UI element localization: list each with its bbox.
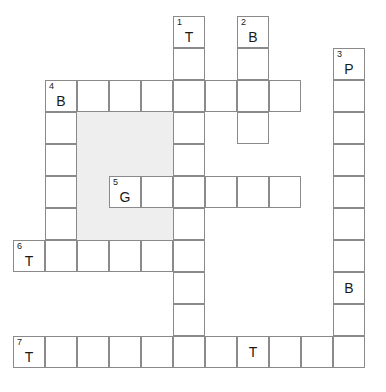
cell-r7c1[interactable] [45, 240, 77, 272]
cell-r1c5[interactable] [173, 48, 205, 80]
cell-r7c5[interactable] [173, 240, 205, 272]
cell-r3c1[interactable] [45, 112, 77, 144]
cell-letter: P [334, 62, 364, 76]
cell-number: 6 [17, 242, 22, 251]
cell-r10c1[interactable] [45, 336, 77, 368]
cell-r3c7[interactable] [237, 112, 269, 144]
cell-r9c5[interactable] [173, 304, 205, 336]
cell-r2c4[interactable] [141, 80, 173, 112]
cell-r4c1[interactable] [45, 144, 77, 176]
cell-r2c2[interactable] [77, 80, 109, 112]
cell-number: 3 [337, 50, 342, 59]
cell-number: 2 [241, 18, 246, 27]
cell-letter: T [238, 345, 268, 359]
cell-number: 7 [17, 338, 22, 347]
cell-r10c10[interactable] [333, 336, 365, 368]
cell-letter: T [14, 350, 44, 364]
cell-r2c3[interactable] [109, 80, 141, 112]
cell-letter: G [110, 190, 140, 204]
cell-r9c10[interactable] [333, 304, 365, 336]
cell-number: 1 [177, 18, 182, 27]
cell-letter: B [334, 281, 364, 295]
cell-r10c0[interactable]: 7T [13, 336, 45, 368]
cell-r0c7[interactable]: 2B [237, 16, 269, 48]
cell-r6c10[interactable] [333, 208, 365, 240]
cell-r10c7[interactable]: T [237, 336, 269, 368]
cell-r5c3[interactable]: 5G [109, 176, 141, 208]
cell-r4c10[interactable] [333, 144, 365, 176]
cell-r1c7[interactable] [237, 48, 269, 80]
cell-r7c0[interactable]: 6T [13, 240, 45, 272]
cell-r0c5[interactable]: 1T [173, 16, 205, 48]
cell-r2c8[interactable] [269, 80, 301, 112]
cell-r6c1[interactable] [45, 208, 77, 240]
cell-letter: T [14, 254, 44, 268]
cell-r5c1[interactable] [45, 176, 77, 208]
cell-r10c3[interactable] [109, 336, 141, 368]
cell-letter: T [174, 30, 204, 44]
cell-r8c5[interactable] [173, 272, 205, 304]
cell-r4c5[interactable] [173, 144, 205, 176]
cell-r5c10[interactable] [333, 176, 365, 208]
cell-r7c3[interactable] [109, 240, 141, 272]
cell-r10c4[interactable] [141, 336, 173, 368]
cell-letter: B [238, 30, 268, 44]
cell-r3c10[interactable] [333, 112, 365, 144]
cell-r10c8[interactable] [269, 336, 301, 368]
cell-r2c6[interactable] [205, 80, 237, 112]
cell-r7c10[interactable] [333, 240, 365, 272]
cell-r10c9[interactable] [301, 336, 333, 368]
cell-r10c6[interactable] [205, 336, 237, 368]
cell-r2c5[interactable] [173, 80, 205, 112]
cell-r5c8[interactable] [269, 176, 301, 208]
cell-r10c5[interactable] [173, 336, 205, 368]
cell-r7c2[interactable] [77, 240, 109, 272]
cell-r3c5[interactable] [173, 112, 205, 144]
cell-r10c2[interactable] [77, 336, 109, 368]
cell-r5c6[interactable] [205, 176, 237, 208]
cell-r6c5[interactable] [173, 208, 205, 240]
cell-letter: B [46, 94, 76, 108]
cell-r1c10[interactable]: 3P [333, 48, 365, 80]
crossword-grid: 1T2B3P4B5G6TB7TT [0, 0, 386, 392]
cell-r8c10[interactable]: B [333, 272, 365, 304]
cell-r2c1[interactable]: 4B [45, 80, 77, 112]
cell-r5c7[interactable] [237, 176, 269, 208]
cell-r2c10[interactable] [333, 80, 365, 112]
cell-r5c5[interactable] [173, 176, 205, 208]
cell-number: 5 [113, 178, 118, 187]
cell-r5c4[interactable] [141, 176, 173, 208]
cell-number: 4 [49, 82, 54, 91]
cell-r2c7[interactable] [237, 80, 269, 112]
cell-r7c4[interactable] [141, 240, 173, 272]
